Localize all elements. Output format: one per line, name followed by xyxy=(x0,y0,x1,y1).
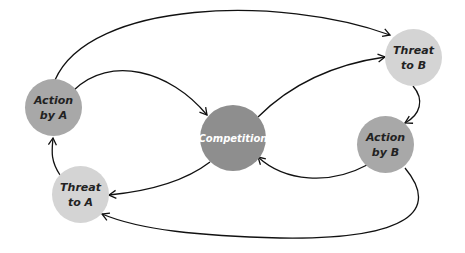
node-label-line1: Action xyxy=(34,93,73,108)
edge-action-b-to-threat-a xyxy=(102,168,419,238)
node-label-line1: Threat xyxy=(60,180,101,195)
edge-competition-to-threat-b xyxy=(258,57,385,117)
edge-threat-a-to-action-a xyxy=(52,138,60,175)
node-label-line1: Competition xyxy=(199,131,268,146)
edge-threat-b-to-action-b xyxy=(405,86,420,123)
edge-competition-to-threat-a xyxy=(109,162,210,195)
node-label-line2: to B xyxy=(393,58,434,73)
edge-action-b-to-competition xyxy=(258,157,367,178)
edge-action-a-to-threat-b xyxy=(55,11,390,80)
node-label-line2: by A xyxy=(34,108,73,123)
node-label-line1: Threat xyxy=(393,43,434,58)
node-label-line2: by B xyxy=(366,145,405,160)
node-action-by-a: Action by A xyxy=(25,79,82,136)
edge-action-a-to-competition xyxy=(74,71,207,115)
node-threat-to-b: Threat to B xyxy=(385,29,442,86)
node-threat-to-a: Threat to A xyxy=(52,166,109,223)
competition-cycle-diagram: Action by A Threat to B Competition Acti… xyxy=(0,0,465,253)
node-action-by-b: Action by B xyxy=(357,116,414,173)
node-competition: Competition xyxy=(200,105,266,171)
node-label-line2: to A xyxy=(60,195,101,210)
node-label-line1: Action xyxy=(366,130,405,145)
